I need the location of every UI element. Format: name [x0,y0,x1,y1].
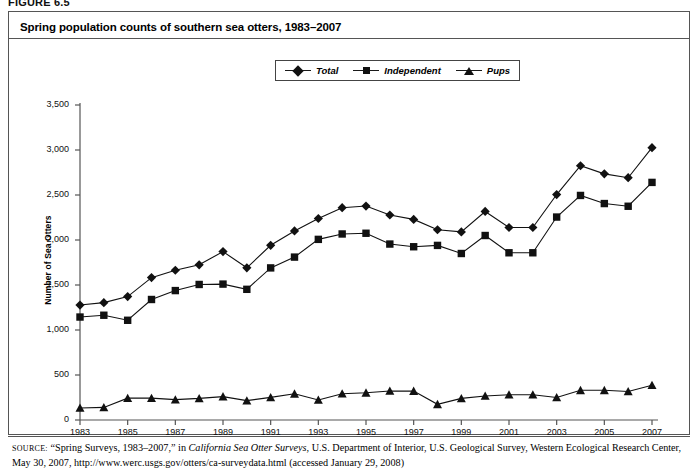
diamond-marker-icon [314,214,323,223]
square-marker-icon [267,264,274,271]
square-marker-icon [481,232,488,239]
diamond-marker-icon [218,247,227,256]
series-independent [76,179,655,324]
square-marker-icon [315,236,322,243]
source-text-a: “Spring Surveys, 1983–2007,” in [48,442,189,453]
series-pups [76,381,657,412]
y-tick-label: 500 [29,369,69,379]
square-marker-icon [195,281,202,288]
chart-svg [0,0,698,470]
diamond-marker-icon [433,225,442,234]
diamond-marker-icon [99,298,108,307]
plot-area: Number of Sea Otters 05001,0001,5002,000… [0,0,698,470]
square-marker-icon [386,240,393,247]
diamond-marker-icon [504,223,513,232]
y-tick-label: 0 [29,414,69,424]
diamond-marker-icon [171,266,180,275]
square-marker-icon [577,192,584,199]
triangle-marker-icon [219,392,228,400]
square-marker-icon [434,242,441,249]
square-marker-icon [148,296,155,303]
source-note: SOURCE: “Spring Surveys, 1983–2007,” in … [12,441,688,469]
square-marker-icon [458,250,465,257]
diamond-marker-icon [361,201,370,210]
square-marker-icon [362,230,369,237]
diamond-marker-icon [409,215,418,224]
square-marker-icon [219,280,226,287]
square-marker-icon [529,249,536,256]
square-marker-icon [76,313,83,320]
y-tick-label: 1,500 [29,279,69,289]
y-tick-label: 2,000 [29,234,69,244]
diamond-marker-icon [338,203,347,212]
diamond-marker-icon [195,260,204,269]
square-marker-icon [338,230,345,237]
series-total [75,143,656,310]
source-italic: California Sea Otter Surveys [189,442,307,453]
square-marker-icon [100,312,107,319]
square-marker-icon [243,286,250,293]
triangle-marker-icon [648,381,657,389]
diamond-marker-icon [385,210,394,219]
source-divider [8,436,690,437]
triangle-marker-icon [290,389,299,397]
y-tick-label: 2,500 [29,189,69,199]
square-marker-icon [648,179,655,186]
square-marker-icon [553,213,560,220]
diamond-marker-icon [75,300,84,309]
square-marker-icon [172,287,179,294]
square-marker-icon [410,243,417,250]
source-prefix: SOURCE: [12,444,48,453]
square-marker-icon [291,253,298,260]
square-marker-icon [601,200,608,207]
diamond-marker-icon [528,223,537,232]
diamond-marker-icon [290,226,299,235]
y-tick-label: 3,500 [29,99,69,109]
diamond-marker-icon [600,169,609,178]
square-marker-icon [124,317,131,324]
square-marker-icon [505,249,512,256]
source-text-b: , U.S. Department of Interior, U.S. Geol… [307,442,650,453]
y-tick-label: 3,000 [29,144,69,154]
y-tick-label: 1,000 [29,324,69,334]
square-marker-icon [624,203,631,210]
